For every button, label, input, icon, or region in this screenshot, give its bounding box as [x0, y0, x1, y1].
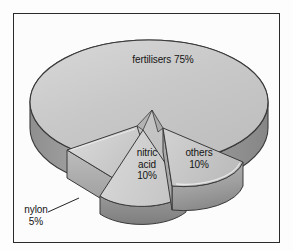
pie-chart-graphic — [0, 0, 293, 251]
nylon-leader-line — [48, 198, 79, 212]
chart-page: fertilisers 75% nitric acid 10% others 1… — [0, 0, 293, 251]
